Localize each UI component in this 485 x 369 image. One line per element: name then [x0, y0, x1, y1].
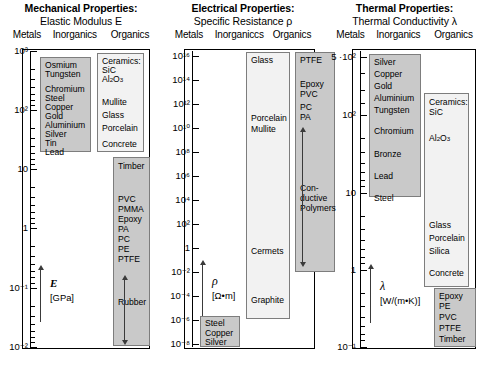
y-tick-major — [192, 296, 199, 297]
material-label: PE — [439, 302, 450, 312]
y-tick-minor — [360, 240, 365, 241]
y-tick-minor — [30, 159, 35, 160]
material-label: Glass — [251, 56, 273, 66]
y-tick-major — [30, 347, 37, 348]
y-tick-minor — [30, 146, 35, 147]
y-tick-minor — [30, 138, 35, 139]
material-label: PVC — [439, 313, 457, 323]
y-axis-label-electrical: 10² — [162, 219, 190, 228]
material-label: Timber — [439, 335, 465, 345]
material-label: Rubber — [118, 298, 146, 308]
axis-symbol-lambda: λ — [380, 281, 385, 292]
y-tick-major — [192, 152, 199, 153]
y-axis-label-electrical: 10⁸ — [162, 147, 190, 156]
material-label: Graphite — [251, 296, 284, 306]
range-arrow-specific-resistance — [202, 264, 203, 316]
y-tick-major — [360, 193, 367, 194]
material-label: Aluminium — [374, 94, 414, 104]
y-tick-major — [192, 344, 199, 345]
y-tick-minor — [360, 73, 365, 74]
y-axis-label-electrical: 1 — [162, 243, 190, 252]
range-arrow-conductive-polymers — [302, 131, 303, 263]
material-label: Lead — [45, 148, 64, 158]
column-header-inorganics: Inorganics — [376, 28, 434, 41]
material-group-metals-mechanical: Osmium Tungsten Chromium Steel Copper Go… — [40, 57, 91, 152]
material-label: Tungsten — [45, 70, 81, 80]
y-tick-minor — [360, 334, 365, 335]
y-tick-minor — [360, 216, 365, 217]
panel-mechanical-columns: MetalsInorganicsOrganics — [0, 28, 162, 41]
material-label: Lead — [374, 172, 393, 182]
y-axis-label-thermal: 5 ·10² — [320, 52, 356, 61]
panel-mechanical-header: Mechanical Properties: Elastic Modulus E… — [0, 2, 162, 41]
panel-thermal-subtitle: Thermal Conductivity λ — [324, 15, 485, 28]
y-tick-major — [192, 128, 199, 129]
y-tick-minor — [360, 306, 365, 307]
material-label: PTFE — [439, 324, 461, 334]
material-label: Copper — [374, 70, 402, 80]
material-label: Chromium — [374, 127, 414, 137]
y-tick-minor — [30, 306, 35, 307]
material-label: Al2O3 — [102, 75, 123, 85]
y-tick-minor — [30, 218, 35, 219]
y-axis-label-thermal: 10 — [320, 188, 356, 197]
y-tick-minor — [30, 87, 35, 88]
y-tick-major — [192, 224, 199, 225]
material-label: PTFE — [118, 255, 140, 265]
y-tick-minor — [30, 316, 35, 317]
panel-thermal-title: Thermal Properties: — [324, 2, 485, 15]
material-group-inorganics-mechanical: Ceramics: SiC Al2O3 Mullite Glass Porcel… — [97, 53, 144, 152]
panel-electrical-title: Electrical Properties: — [162, 2, 324, 15]
material-label: SiC — [429, 108, 443, 118]
panel-thermal-header: Thermal Properties: Thermal Conductivity… — [324, 2, 485, 41]
y-tick-major — [192, 176, 199, 177]
y-tick-major — [192, 272, 199, 273]
y-axis-label-electrical: 10¹² — [162, 99, 190, 108]
panel-mechanical-subtitle: Elastic Modulus E — [0, 15, 162, 28]
y-axis-label-mechanical: 1 — [0, 223, 28, 232]
y-tick-minor — [30, 187, 35, 188]
y-tick-minor — [30, 197, 35, 198]
y-tick-minor — [30, 324, 35, 325]
y-axis-label-mechanical: 10⁻² — [0, 342, 28, 351]
panel-electrical-subtitle: Specific Resistance ρ — [162, 15, 324, 28]
material-label: PTFE — [300, 56, 322, 66]
axis-symbol-E: E — [50, 278, 57, 289]
material-label: Concrete — [102, 140, 137, 150]
material-label: Mullite — [251, 125, 276, 135]
y-tick-major — [30, 51, 37, 52]
y-tick-minor — [30, 256, 35, 257]
y-tick-minor — [30, 100, 35, 101]
y-axis-label-mechanical: 10⁻¹ — [0, 283, 28, 292]
material-label: Porcelain — [102, 124, 138, 134]
y-tick-minor — [360, 340, 365, 341]
material-label: Cermets — [251, 247, 283, 257]
column-header-inorganics: Inorganiccs — [215, 28, 273, 41]
axis-unit-ohm-m: [Ω•m] — [212, 290, 235, 301]
y-tick-minor — [30, 69, 35, 70]
y-tick-major — [192, 104, 199, 105]
y-axis-label-thermal: 10² — [320, 110, 356, 119]
material-group-organics-mechanical: Timber PVC PMMA Epoxy PA PC PE PTFE Rubb… — [113, 157, 150, 346]
y-tick-major — [30, 110, 37, 111]
y-axis-label-electrical: 10¹⁰ — [162, 123, 190, 132]
axis-symbol-rho: ρ — [212, 276, 218, 287]
y-tick-minor — [30, 264, 35, 265]
material-label: Mullite — [102, 98, 127, 108]
y-tick-major — [192, 320, 199, 321]
material-label: Gold — [374, 82, 392, 92]
panel-mechanical-properties: Mechanical Properties: Elastic Modulus E… — [0, 0, 162, 369]
y-axis-label-thermal: 1 — [320, 265, 356, 274]
material-label: Bronze — [374, 150, 401, 160]
y-tick-major — [360, 270, 367, 271]
y-axis-label-mechanical: 10² — [0, 105, 28, 114]
y-tick-minor — [360, 90, 365, 91]
y-axis-label-electrical: 10⁻⁴ — [162, 291, 190, 300]
material-group-inorganics-electrical: Glass Porcelain Mullite Cermets Graphite — [246, 52, 290, 319]
y-tick-major — [192, 56, 199, 57]
material-group-inorganics-thermal: Ceramics: SiC Al2O3 Glass Porcelain Sili… — [424, 93, 469, 287]
y-axis-label-electrical: 10⁴ — [162, 195, 190, 204]
material-label: Silver — [205, 338, 227, 348]
y-tick-minor — [360, 152, 365, 153]
material-label: Tungsten — [374, 106, 410, 116]
